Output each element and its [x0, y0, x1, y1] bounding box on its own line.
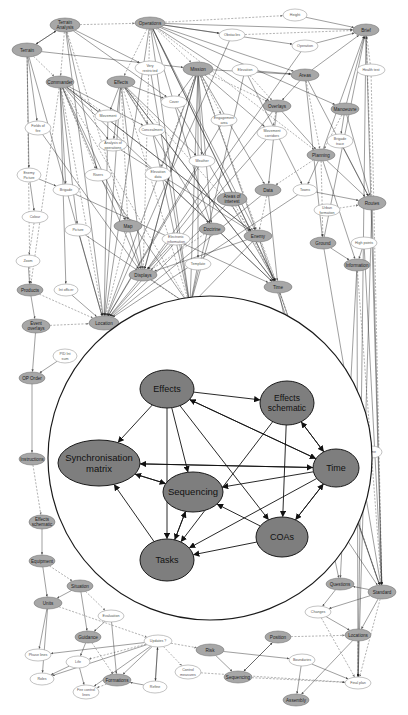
node-evaluation[interactable]: Evaluation [98, 610, 124, 622]
node-overlays[interactable]: Overlays [263, 100, 291, 112]
node-doctrine[interactable]: Doctrine [199, 223, 225, 235]
node-brigade[interactable]: Brigade [53, 184, 79, 196]
inset-node-coas[interactable]: COAs [256, 517, 308, 557]
inset-node-label: matrix [86, 463, 112, 474]
outer-edge [291, 635, 345, 636]
node-ground[interactable]: Ground [310, 237, 336, 249]
node-updates[interactable]: Updates ? [144, 635, 172, 647]
inset-node-effects-schematic[interactable]: Effectsschematic [260, 381, 314, 425]
node-guidance[interactable]: Guidance [75, 631, 101, 643]
node-colour[interactable]: Colour [22, 211, 48, 223]
node-towns[interactable]: Towns [293, 184, 317, 196]
node-formations[interactable]: Formations [103, 674, 131, 686]
node-movement[interactable]: Movement [95, 110, 121, 122]
node-weather[interactable]: Weather [189, 155, 215, 167]
outer-edge [269, 112, 277, 184]
node-operations[interactable]: Operations [135, 17, 165, 29]
outer-edge [250, 76, 272, 100]
node-enemy[interactable]: Enemy [244, 230, 272, 242]
node-int-officer[interactable]: Int officer [54, 284, 78, 296]
inset-node-effects[interactable]: Effects [140, 370, 194, 408]
inset-node-synchronisation-matrix[interactable]: Synchronisationmatrix [58, 440, 140, 486]
node-cover[interactable]: Cover [161, 96, 187, 108]
inset-node-time[interactable]: Time [313, 449, 359, 487]
node-areas-of-interest[interactable]: Areas ofinterest [217, 192, 247, 206]
node-mission[interactable]: Mission [183, 62, 213, 76]
node-fire-control-lines[interactable]: Fire controllines [73, 685, 99, 699]
node-op-order[interactable]: OP Order [19, 372, 45, 384]
node-very-restricted[interactable]: Veryrestricted [135, 61, 165, 75]
node-products[interactable]: Products [17, 284, 43, 296]
node-time-outer[interactable]: Time [264, 281, 292, 293]
node-obstacles[interactable]: Obstacles [219, 29, 245, 41]
outer-edge [341, 115, 344, 134]
node-zoom[interactable]: Zoom [16, 255, 40, 267]
node-brigade-trace[interactable]: Brigadetrace [327, 134, 353, 148]
node-control-measures[interactable]: Controlmeasures [175, 665, 201, 679]
node-urban-formation[interactable]: Urbanformation [314, 204, 340, 216]
node-manoeuvre[interactable]: Manoeuvre [331, 103, 359, 115]
node-life[interactable]: Life [66, 656, 90, 668]
inset-node-sequencing[interactable]: Sequencing [163, 472, 223, 512]
outer-edge [34, 56, 54, 76]
node-effects-outer[interactable]: Effects [107, 76, 135, 88]
node-terrain[interactable]: Terrain [12, 43, 42, 57]
node-picture[interactable]: Picture [65, 224, 91, 236]
node-units[interactable]: Units [34, 597, 62, 609]
node-phase-lines[interactable]: Phase lines [25, 649, 51, 661]
node-concealment[interactable]: Concealment [139, 124, 165, 136]
node-elevation[interactable]: Elevation [232, 64, 258, 76]
node-template[interactable]: Template [185, 258, 211, 270]
node-analysis-of-operations[interactable]: Analysis ofoperations [99, 139, 127, 151]
node-changes[interactable]: Changes [305, 606, 331, 618]
node-equipment[interactable]: Equipment [29, 555, 55, 567]
node-questions[interactable]: Questions [326, 578, 354, 590]
node-situation[interactable]: Situation [67, 580, 93, 592]
node-planning[interactable]: Planning [307, 149, 335, 161]
inset-node-tasks[interactable]: Tasks [140, 539, 194, 581]
node-label: Fire control [77, 688, 95, 692]
node-locations[interactable]: Locations [345, 629, 371, 641]
node-map[interactable]: Map [114, 220, 142, 232]
node-electronic-information[interactable]: Electronicinformation [162, 233, 190, 245]
node-elevation-data[interactable]: Elevationdata [145, 167, 171, 181]
node-roles[interactable]: Roles [30, 673, 54, 685]
outer-edge [32, 333, 35, 372]
node-label: Phase lines [29, 653, 48, 657]
node-fields-of-fire[interactable]: Fields offire [25, 121, 51, 135]
node-height[interactable]: Height [283, 9, 307, 21]
node-engagement-area[interactable]: Engagementarea [211, 114, 237, 126]
node-effects-schematic-outer[interactable]: Effectsschematic [29, 515, 55, 529]
node-label: Colour [30, 215, 41, 219]
node-risk[interactable]: Risk [196, 644, 224, 656]
outer-edge [97, 684, 107, 688]
node-refine[interactable]: Refine [143, 681, 167, 693]
node-commander[interactable]: Commander [46, 76, 74, 88]
node-areas[interactable]: Areas [291, 69, 319, 81]
node-sequencing-outer[interactable]: Sequencing [224, 671, 252, 683]
node-standard[interactable]: Standard [368, 585, 396, 599]
node-health-test[interactable]: Health test [357, 64, 385, 76]
outer-edge [316, 33, 354, 43]
node-final-plan[interactable]: Final plan [345, 677, 371, 689]
node-instructions[interactable]: Instructions [19, 453, 45, 465]
node-brief[interactable]: Brief [353, 24, 379, 36]
node-rivers[interactable]: Rivers [85, 169, 111, 181]
node-operation[interactable]: Operation [292, 40, 318, 52]
node-pid-int-sum[interactable]: PID Intsum [53, 349, 77, 363]
outer-edge [216, 655, 232, 671]
node-boundaries[interactable]: Boundaries [289, 654, 315, 666]
node-routes[interactable]: Routes [358, 196, 386, 210]
node-information[interactable]: Information [344, 259, 370, 271]
node-high-points[interactable]: High points [351, 237, 377, 249]
node-displays[interactable]: Displays [129, 269, 157, 281]
node-movement-corridors[interactable]: Movementcorridors [257, 126, 287, 140]
node-label: Picture [23, 176, 34, 180]
node-assembly[interactable]: Assembly [283, 694, 309, 706]
node-event-overlays[interactable]: Eventoverlays [22, 319, 50, 333]
outer-edge [127, 87, 196, 155]
node-terrain-analysis[interactable]: TerrainAnalysis [50, 18, 80, 32]
node-enemy-picture[interactable]: EnemyPicture [17, 168, 41, 182]
node-position[interactable]: Position [265, 631, 291, 643]
node-data[interactable]: Data [255, 184, 281, 196]
